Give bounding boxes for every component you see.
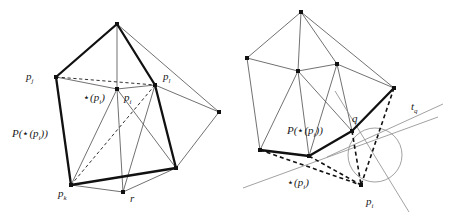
r-vertex-upper-right bbox=[335, 62, 339, 66]
vertex-pk bbox=[69, 183, 73, 187]
r-vertex-bottom-mid bbox=[307, 154, 311, 158]
vertex-lower-right bbox=[174, 166, 178, 170]
r-vertex-pi bbox=[359, 183, 363, 187]
r-vertex-right bbox=[392, 86, 396, 90]
label-r: r bbox=[130, 192, 135, 204]
vertex-pj bbox=[54, 75, 58, 79]
vertex-pi bbox=[115, 87, 119, 91]
figure-root: pj pl ⋆(pi) pi P(⋆(pi)) pk r bbox=[0, 0, 451, 212]
r-vertex-bottom-left bbox=[258, 148, 262, 152]
vertex-r bbox=[121, 190, 125, 194]
vertex-apex bbox=[115, 22, 119, 26]
vertex-right bbox=[217, 110, 221, 114]
r-vertex-center bbox=[296, 69, 300, 73]
r-vertex-q bbox=[350, 129, 354, 133]
r-vertex-apex bbox=[299, 10, 303, 14]
canvas-background bbox=[0, 0, 451, 212]
geometry-figure-svg: pj pl ⋆(pi) pi P(⋆(pi)) pk r bbox=[0, 0, 451, 212]
vertex-pl bbox=[153, 83, 157, 87]
r-vertex-upper-left bbox=[245, 56, 249, 60]
r-label-q: q bbox=[352, 112, 358, 124]
